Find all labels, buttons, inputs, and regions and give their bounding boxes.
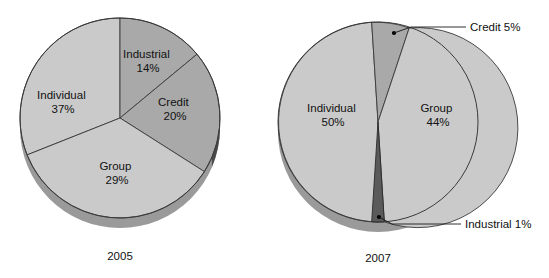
pie-chart-2005: Industrial 14% Credit 20% Group 29% Indi… <box>20 18 220 262</box>
figure-canvas: Industrial 14% Credit 20% Group 29% Indi… <box>0 0 549 278</box>
pie-2007-year-label: 2007 <box>365 252 391 264</box>
pie-2005-year-label: 2005 <box>107 250 133 262</box>
pie-2007-label-credit: Credit 5% <box>470 21 521 33</box>
pie-chart-2007: Credit 5% Industrial 1% Group 44% Indivi… <box>278 21 531 264</box>
pie-2007-label-industrial: Industrial 1% <box>465 218 531 230</box>
pie-charts-figure: Industrial 14% Credit 20% Group 29% Indi… <box>0 0 549 278</box>
